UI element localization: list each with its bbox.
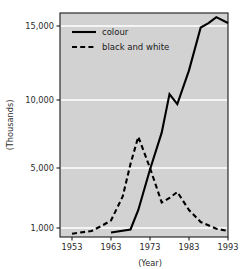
y-tick-label: 1,000 <box>31 223 54 233</box>
x-tick-label: 1983 <box>179 242 200 252</box>
legend-label-black-and-white: black and white <box>102 42 169 52</box>
x-tick-label: 1993 <box>218 242 239 252</box>
y-axis-title: (Thousands) <box>5 100 15 151</box>
y-tick-label: 10,000 <box>25 95 54 105</box>
legend-label-colour: colour <box>102 27 129 37</box>
y-axis-tick-labels: 1,0005,00010,00015,000 <box>25 21 54 233</box>
x-axis-title: (Year) <box>138 258 162 268</box>
chart-figure: 1,0005,00010,00015,000 19531963197319831… <box>0 0 245 269</box>
y-tick-label: 15,000 <box>25 21 54 31</box>
line-chart: 1,0005,00010,00015,000 19531963197319831… <box>0 0 245 269</box>
y-tick-label: 5,000 <box>31 163 54 173</box>
x-tick-label: 1963 <box>101 242 122 252</box>
x-tick-label: 1973 <box>140 242 161 252</box>
x-axis-tick-labels: 19531963197319831993 <box>62 242 239 252</box>
x-tick-label: 1953 <box>62 242 83 252</box>
